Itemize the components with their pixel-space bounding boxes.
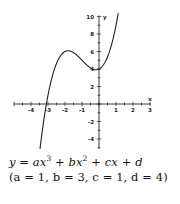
y-tick-label: -4: [88, 136, 94, 142]
y-tick-label: 2: [90, 84, 94, 90]
x-tick-label: 1: [114, 107, 118, 113]
y-tick-label: 6: [90, 49, 94, 55]
x-tick-label: 3: [148, 107, 152, 113]
x-tick-label: -2: [62, 107, 68, 113]
y-axis-label: y: [103, 14, 107, 21]
x-tick-label: -4: [28, 107, 34, 113]
cubic-plot: -4-3-2-1123-4-2246810xy: [0, 0, 180, 150]
y-tick-label: -2: [88, 119, 94, 125]
equation-line: y = ax3 + bx2 + cx + d: [9, 155, 143, 169]
parameter-values: (a = 1, b = 3, c = 1, d = 4): [9, 170, 168, 184]
axes: [14, 16, 151, 149]
x-tick-label: 2: [131, 107, 135, 113]
tick-labels: -4-3-2-1123-4-2246810xy: [28, 14, 152, 143]
y-tick-label: 8: [90, 31, 94, 37]
x-axis-label: x: [148, 96, 152, 102]
tick-marks: [14, 17, 150, 148]
cubic-curve: [40, 13, 118, 149]
y-tick-label: 10: [86, 14, 94, 20]
x-tick-label: -1: [79, 107, 85, 113]
